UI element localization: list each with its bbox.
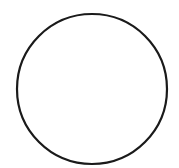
diagram-canvas: [0, 0, 179, 168]
circle-shape: [17, 14, 167, 164]
